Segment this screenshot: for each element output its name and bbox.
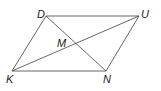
vertex-label-K: K [6,73,14,85]
parallelogram-diagram: D U M K N [0,0,161,91]
intersection-label-M: M [57,37,67,49]
vertex-label-D: D [37,8,45,20]
vertex-label-N: N [103,73,111,85]
diagonal-KU [12,16,139,71]
vertex-label-U: U [141,8,149,20]
